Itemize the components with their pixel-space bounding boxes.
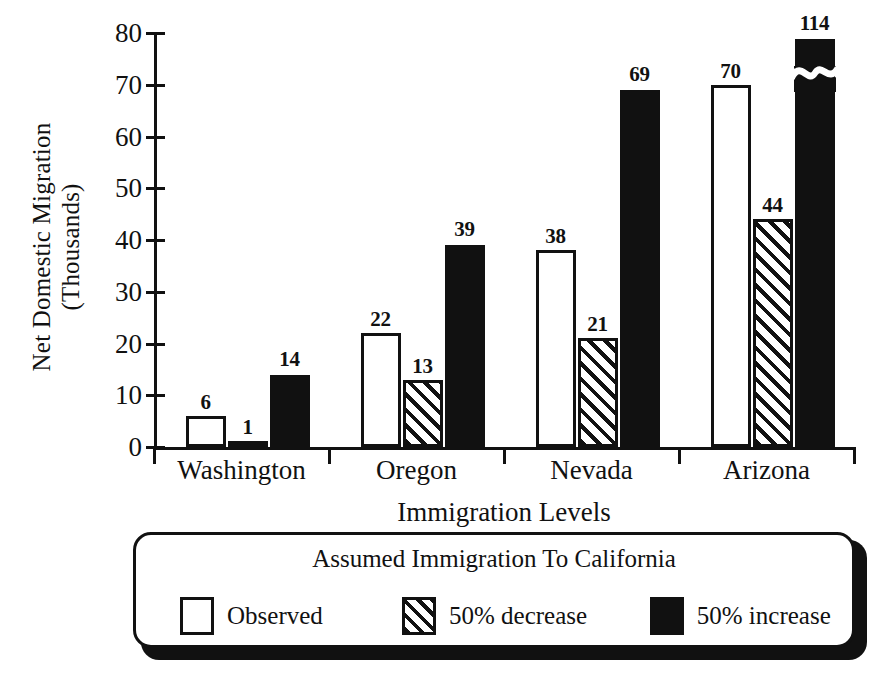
bar-value-label: 38 bbox=[545, 224, 565, 249]
bar-chart-figure: Net Domestic Migration (Thousands) 01020… bbox=[0, 0, 876, 673]
x-tick-mark bbox=[328, 447, 331, 464]
y-tick-label: 80 bbox=[115, 18, 142, 49]
legend-title: Assumed Immigration To California bbox=[136, 545, 852, 573]
bar-washington-increase: 14 bbox=[270, 375, 310, 447]
bar-value-label: 6 bbox=[200, 390, 210, 415]
bar-arizona-increase: 114 bbox=[795, 39, 835, 447]
bar-nevada-observed: 38 bbox=[536, 250, 576, 447]
y-tick-mark bbox=[146, 136, 165, 139]
x-tick-mark bbox=[853, 447, 856, 464]
y-tick-label: 70 bbox=[115, 69, 142, 100]
axis-break-squiggle-icon bbox=[794, 66, 836, 92]
bar-arizona-decrease: 44 bbox=[753, 219, 793, 447]
bar-value-label: 22 bbox=[370, 307, 390, 332]
legend: Assumed Immigration To California Observ… bbox=[133, 532, 855, 648]
bar-nevada-increase: 69 bbox=[620, 90, 660, 447]
x-tick-mark bbox=[503, 447, 506, 464]
x-tick-mark bbox=[153, 447, 156, 464]
y-tick-mark bbox=[146, 239, 165, 242]
y-tick-label: 10 bbox=[115, 380, 142, 411]
x-axis-title: Immigration Levels bbox=[154, 497, 854, 528]
legend-label: Observed bbox=[227, 602, 323, 630]
x-tick-mark bbox=[678, 447, 681, 464]
bar-value-label: 39 bbox=[454, 217, 474, 242]
y-tick-mark bbox=[146, 32, 165, 35]
legend-label: 50% decrease bbox=[449, 602, 587, 630]
legend-items: Observed50% decrease50% increase bbox=[136, 591, 852, 641]
y-tick-label: 50 bbox=[115, 173, 142, 204]
y-axis-title: Net Domestic Migration (Thousands) bbox=[27, 87, 85, 407]
plot-area: 01020304050607080 6114221339382169704411… bbox=[154, 33, 854, 447]
bar-oregon-increase: 39 bbox=[445, 245, 485, 447]
bar-value-label: 1 bbox=[242, 415, 252, 440]
bar-value-label: 14 bbox=[279, 347, 299, 372]
legend-label: 50% increase bbox=[697, 602, 831, 630]
y-tick-label: 40 bbox=[115, 225, 142, 256]
bar-washington-decrease: 1 bbox=[228, 441, 268, 447]
bar-oregon-observed: 22 bbox=[361, 333, 401, 447]
category-label-nevada: Nevada bbox=[550, 455, 632, 486]
y-tick-label: 60 bbox=[115, 121, 142, 152]
y-tick-mark bbox=[146, 394, 165, 397]
bar-oregon-decrease: 13 bbox=[403, 380, 443, 447]
bar-value-label: 44 bbox=[762, 193, 782, 218]
category-label-washington: Washington bbox=[177, 455, 305, 486]
bar-arizona-observed: 70 bbox=[711, 85, 751, 447]
bar-washington-observed: 6 bbox=[186, 416, 226, 447]
y-tick-mark bbox=[146, 84, 165, 87]
bar-value-label: 69 bbox=[629, 62, 649, 87]
bar-value-label: 70 bbox=[720, 59, 740, 84]
bar-value-label: 13 bbox=[412, 354, 432, 379]
bar-value-label: 21 bbox=[587, 312, 607, 337]
y-tick-label: 30 bbox=[115, 276, 142, 307]
legend-swatch-increase bbox=[650, 597, 684, 635]
y-tick-mark bbox=[146, 291, 165, 294]
y-tick-mark bbox=[146, 343, 165, 346]
legend-item-observed: Observed bbox=[136, 597, 402, 635]
legend-item-decrease: 50% decrease bbox=[402, 597, 650, 635]
y-tick-mark bbox=[146, 187, 165, 190]
legend-swatch-observed bbox=[180, 597, 214, 635]
legend-item-increase: 50% increase bbox=[650, 597, 852, 635]
category-label-arizona: Arizona bbox=[723, 455, 810, 486]
legend-swatch-decrease bbox=[402, 597, 436, 635]
y-tick-label: 0 bbox=[129, 432, 143, 463]
bar-nevada-decrease: 21 bbox=[578, 338, 618, 447]
bar-value-label: 114 bbox=[800, 11, 829, 36]
y-tick-label: 20 bbox=[115, 328, 142, 359]
category-label-oregon: Oregon bbox=[376, 455, 457, 486]
